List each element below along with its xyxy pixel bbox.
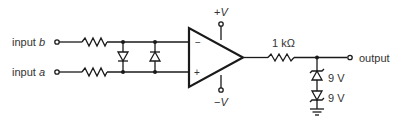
input-b-terminal[interactable] — [55, 40, 59, 44]
output-resistor — [268, 54, 294, 61]
pos-supply-terminal[interactable] — [219, 22, 223, 26]
inverting-input-sign: − — [195, 37, 201, 48]
neg-supply-label: −V — [214, 96, 229, 108]
op-amp: +V −V − + — [189, 6, 243, 108]
input-b-branch: input b — [12, 36, 188, 48]
output-terminal[interactable] — [348, 55, 352, 59]
output-resistor-label: 1 kΩ — [272, 37, 295, 49]
diode-up-icon — [150, 52, 160, 61]
protection-diode-1 — [118, 40, 128, 74]
zener-diode-up-icon — [312, 71, 322, 80]
circuit-schematic: input b input a +V −V — [0, 0, 405, 128]
zener-1-label: 9 V — [328, 72, 345, 84]
pos-supply-label: +V — [214, 6, 229, 18]
zener-diode-down-icon — [312, 91, 322, 100]
neg-supply-terminal[interactable] — [219, 88, 223, 92]
input-a-terminal[interactable] — [55, 70, 59, 74]
diode-down-icon — [118, 52, 128, 61]
ground-icon — [310, 109, 324, 115]
input-a-label: input a — [12, 66, 45, 78]
input-a-resistor — [82, 68, 107, 76]
input-a-branch: input a — [12, 66, 188, 78]
input-b-resistor — [82, 38, 107, 46]
noninverting-input-sign: + — [194, 67, 200, 78]
output-label: output — [359, 52, 390, 64]
input-b-label: input b — [12, 36, 45, 48]
zener-2-label: 9 V — [328, 92, 345, 104]
protection-diode-2 — [150, 40, 160, 74]
output-stage: 1 kΩ output 9 V 9 V — [244, 37, 390, 115]
